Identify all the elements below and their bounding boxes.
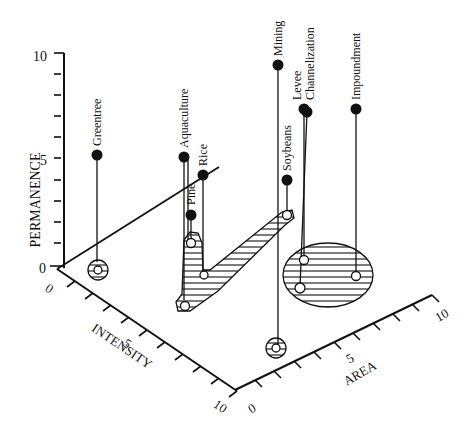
point-rice: Rice <box>196 144 210 181</box>
point-mining: Mining <box>271 21 285 71</box>
z-tick-10: 10 <box>33 49 47 64</box>
x-tick-0: 0 <box>43 280 57 296</box>
forest-region <box>176 210 294 311</box>
point-impoundment: Impoundment <box>349 32 363 114</box>
label-pine: Pine <box>184 184 198 205</box>
y-tick-0: 0 <box>245 400 258 416</box>
label-mining: Mining <box>271 21 285 56</box>
y-tick-10: 10 <box>432 305 451 324</box>
label-rice: Rice <box>196 144 210 166</box>
label-impoundment: Impoundment <box>349 32 363 100</box>
point-pine: Pine <box>184 184 198 221</box>
x-tick-10: 10 <box>211 396 230 416</box>
chart: 10 5 0 PERMANENCE 0 5 10 INTENSITY <box>0 0 469 434</box>
z-axis-label: PERMANENCE <box>28 153 43 248</box>
label-greentree: Greentree <box>90 99 104 146</box>
y-tick-5: 5 <box>343 350 356 366</box>
chart-canvas: 10 5 0 PERMANENCE 0 5 10 INTENSITY <box>0 0 469 434</box>
area-axis: 0 5 10 AREA <box>235 295 451 416</box>
label-levee: Levee <box>290 71 304 100</box>
label-soybeans: Soybeans <box>280 125 294 171</box>
label-channelization: Channelization <box>303 27 317 100</box>
point-greentree: Greentree <box>90 99 104 161</box>
y-axis-label: AREA <box>341 357 380 388</box>
z-tick-0: 0 <box>39 261 46 276</box>
label-aquaculture: Aquaculture <box>177 89 191 148</box>
point-aquaculture: Aquaculture <box>177 89 191 163</box>
point-soybeans: Soybeans <box>280 125 294 186</box>
permanence-axis: 10 5 0 PERMANENCE <box>28 49 64 276</box>
